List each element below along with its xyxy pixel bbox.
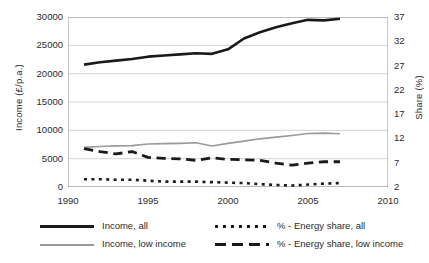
series-line-1 [84,19,340,65]
legend-label: % - Energy share, all [277,218,365,234]
y-axis-right-tick-label: 2 [394,181,429,192]
x-axis-tick-label: 1990 [48,195,88,206]
y-axis-left-tick-label: 10000 [19,124,63,135]
legend-swatch-dotted-icon [215,225,269,228]
plot-area [68,17,388,187]
legend-label: Income, all [102,218,148,234]
legend-label: % - Energy share, low income [277,236,403,252]
legend-swatch-solid-icon [40,244,94,246]
series-line-4 [84,149,340,166]
series-line-2 [84,133,340,147]
y-axis-left-tick-label: 25000 [19,39,63,50]
y-axis-left-tick-label: 20000 [19,68,63,79]
x-axis-tick-label: 2010 [368,195,408,206]
x-axis-tick-label: 1995 [128,195,168,206]
y-axis-left-tick-label: 5000 [19,153,63,164]
legend-swatch-solid-icon [40,225,94,228]
y-axis-right-tick-label: 37 [394,11,429,22]
chart-legend: Income, allIncome, low income% - Energy … [0,218,422,263]
y-axis-right-title: Share (%) [413,28,424,168]
y-axis-right-tick-label: 7 [394,157,429,168]
y-axis-left-tick-label: 0 [19,181,63,192]
y-axis-right-tick-label: 32 [394,35,429,46]
y-axis-right-tick-label: 22 [394,84,429,95]
y-axis-right-tick-label: 12 [394,132,429,143]
y-axis-left-tick-label: 30000 [19,11,63,22]
y-axis-right-tick-label: 27 [394,60,429,71]
x-axis-tick-label: 2005 [288,195,328,206]
plot-svg [68,17,388,187]
y-axis-left-tick-label: 15000 [19,96,63,107]
legend-label: Income, low income [102,236,186,252]
x-axis-tick-label: 2000 [208,195,248,206]
y-axis-right-tick-label: 17 [394,108,429,119]
series-line-3 [84,179,340,185]
legend-swatch-dashed-icon [215,243,269,246]
